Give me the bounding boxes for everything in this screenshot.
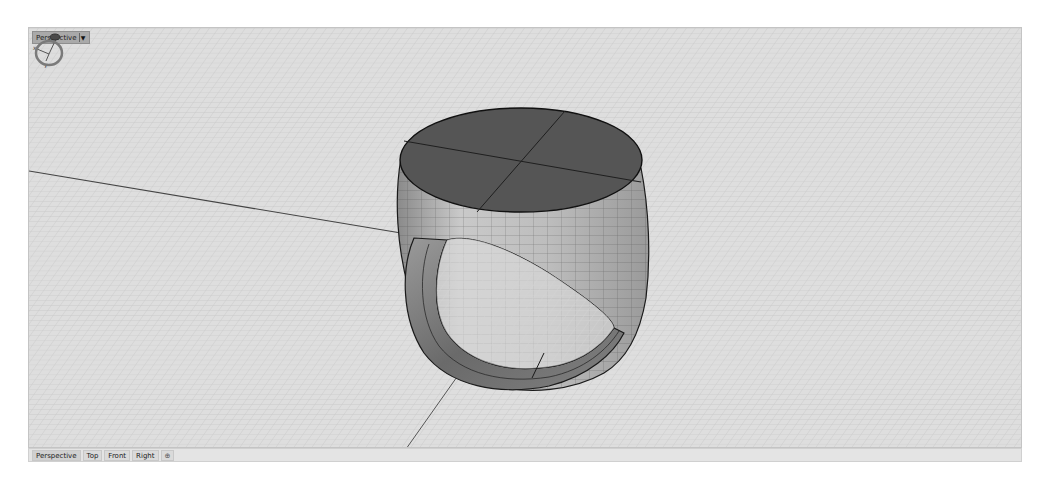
chevron-down-icon[interactable]: ▼ bbox=[79, 33, 87, 42]
ring-orbit-icon[interactable] bbox=[29, 28, 73, 68]
tab-top[interactable]: Top bbox=[83, 450, 103, 461]
perspective-viewport[interactable]: Perspective ▼ z x y bbox=[28, 27, 1022, 448]
viewport-tabs: Perspective Top Front Right ⊕ bbox=[28, 448, 1022, 462]
ring-model[interactable] bbox=[397, 108, 648, 390]
add-viewport-icon[interactable]: ⊕ bbox=[161, 450, 175, 461]
tab-right[interactable]: Right bbox=[132, 450, 158, 461]
viewport-canvas[interactable] bbox=[29, 28, 1022, 448]
ring-top-face bbox=[400, 108, 642, 212]
tab-perspective[interactable]: Perspective bbox=[32, 450, 81, 461]
cropped-top-text bbox=[28, 0, 328, 2]
tab-front[interactable]: Front bbox=[104, 450, 130, 461]
